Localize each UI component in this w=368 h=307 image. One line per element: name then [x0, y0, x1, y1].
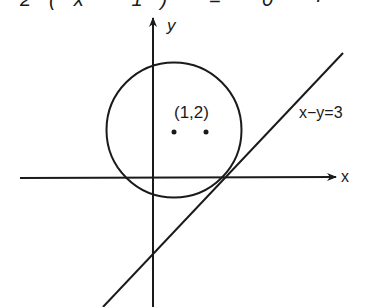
- point-dot: [204, 130, 209, 135]
- x-axis-label: x: [341, 168, 349, 186]
- tangent-line: [103, 53, 343, 307]
- y-axis-label: y: [167, 16, 176, 36]
- point-label: (1,2): [174, 103, 209, 123]
- diagram-canvas: [0, 0, 368, 307]
- center-dot: [172, 130, 177, 135]
- line-equation-label: x−y=3: [299, 104, 343, 122]
- x-axis: [20, 177, 336, 178]
